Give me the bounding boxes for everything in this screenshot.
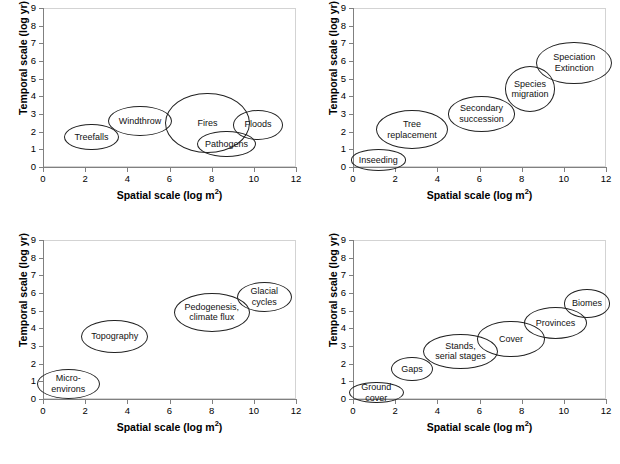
ellipse-label: Micro- environs (51, 373, 85, 394)
x-tick (296, 400, 297, 404)
x-axis-title: Spatial scale (log m2) (353, 187, 606, 201)
ellipse-windthrow: Windthrow (108, 106, 171, 136)
ellipse-floods: Floods (233, 110, 284, 140)
y-tick (349, 293, 353, 294)
y-tick-label: 2 (20, 359, 36, 368)
y-tick (39, 8, 43, 9)
y-axis-line (43, 8, 44, 168)
ellipse-label: Pathogens (205, 139, 248, 150)
x-tick-label: 8 (202, 405, 222, 416)
x-tick-label: 10 (554, 405, 574, 416)
x-tick (437, 400, 438, 404)
x-tick-label: 2 (385, 173, 405, 184)
y-tick (39, 364, 43, 365)
y-tick (349, 114, 353, 115)
y-tick (39, 149, 43, 150)
ellipse-label: Glacial cycles (251, 286, 279, 307)
y-tick (39, 43, 43, 44)
y-axis-title: Temporal scale (log yr) (327, 220, 339, 360)
x-tick-label: 6 (470, 405, 490, 416)
x-tick-label: 8 (512, 405, 532, 416)
x-tick (606, 400, 607, 404)
x-tick (85, 168, 86, 172)
x-tick-label: 4 (427, 173, 447, 184)
ellipse-label: Species migration (512, 79, 549, 100)
x-tick-label: 12 (286, 173, 306, 184)
x-tick-label: 0 (33, 405, 53, 416)
ellipse-secondary-succession: Secondary succession (448, 96, 515, 131)
ellipse-label: Ground cover (350, 382, 403, 403)
x-tick (170, 168, 171, 172)
x-axis-title: Spatial scale (log m2) (353, 419, 606, 433)
ellipse-inseeding: Inseeding (351, 149, 406, 170)
y-tick (39, 240, 43, 241)
panel-top-left: 0123456789024681012Spatial scale (log m2… (0, 0, 310, 232)
y-tick-label: 2 (330, 359, 346, 368)
ellipse-label: Speciation Extinction (553, 52, 595, 73)
x-tick (480, 400, 481, 404)
x-tick-label: 10 (554, 173, 574, 184)
ellipse-label: Tree replacement (387, 119, 437, 140)
y-tick (39, 311, 43, 312)
y-tick (349, 275, 353, 276)
y-axis-title: Temporal scale (log yr) (17, 0, 29, 128)
y-tick (349, 96, 353, 97)
x-tick-label: 8 (512, 173, 532, 184)
x-tick-label: 6 (160, 173, 180, 184)
x-tick-label: 4 (427, 405, 447, 416)
x-tick (353, 168, 354, 172)
x-tick-label: 0 (343, 173, 363, 184)
y-tick (39, 346, 43, 347)
ellipse-label: Provinces (536, 318, 576, 329)
ellipse-label: Treefalls (74, 132, 108, 143)
y-tick (39, 114, 43, 115)
ellipse-label: Biomes (572, 298, 602, 309)
x-tick (43, 400, 44, 404)
y-tick (349, 258, 353, 259)
x-tick-label: 10 (244, 173, 264, 184)
y-tick (349, 79, 353, 80)
x-tick-label: 0 (33, 173, 53, 184)
x-tick (127, 168, 128, 172)
y-axis-line (353, 240, 354, 400)
x-axis-title: Spatial scale (log m2) (43, 187, 296, 201)
y-tick (349, 26, 353, 27)
x-tick (85, 400, 86, 404)
y-tick-label: 0 (330, 394, 346, 403)
x-tick (437, 168, 438, 172)
ellipse-speciation-extinction: Speciation Extinction (536, 42, 612, 84)
y-tick (349, 132, 353, 133)
y-tick (349, 328, 353, 329)
ellipse-label: Gaps (401, 364, 423, 375)
ellipse-label: Pedogenesis, climate flux (184, 302, 239, 323)
x-tick (606, 168, 607, 172)
panel-bottom-right: 0123456789024681012Spatial scale (log m2… (310, 232, 620, 464)
y-tick-label: 1 (330, 144, 346, 153)
y-tick-label: 1 (20, 144, 36, 153)
x-tick (43, 168, 44, 172)
ellipse-label: Cover (499, 334, 523, 345)
y-tick (349, 149, 353, 150)
y-tick (349, 8, 353, 9)
panel-top-right: 0123456789024681012Spatial scale (log m2… (310, 0, 620, 232)
x-tick-label: 0 (343, 405, 363, 416)
x-axis-title: Spatial scale (log m2) (43, 419, 296, 433)
panel-bottom-left: 0123456789024681012Spatial scale (log m2… (0, 232, 310, 464)
y-tick (349, 43, 353, 44)
ellipse-label: Inseeding (359, 155, 398, 166)
x-tick-label: 12 (286, 405, 306, 416)
x-tick-label: 4 (117, 173, 137, 184)
y-tick (39, 61, 43, 62)
x-tick-label: 12 (596, 405, 616, 416)
x-tick-label: 10 (244, 405, 264, 416)
x-tick-label: 6 (160, 405, 180, 416)
ellipse-label: Topography (91, 331, 138, 342)
x-tick-label: 6 (470, 173, 490, 184)
y-tick (349, 311, 353, 312)
x-tick (480, 168, 481, 172)
four-panel-scale-figure: 0123456789024681012Spatial scale (log m2… (0, 0, 620, 464)
y-tick (349, 346, 353, 347)
y-tick (349, 61, 353, 62)
x-tick-label: 8 (202, 173, 222, 184)
y-tick (39, 328, 43, 329)
